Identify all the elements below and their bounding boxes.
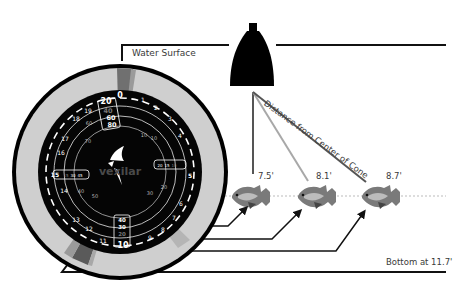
svg-text:80: 80 xyxy=(107,121,117,129)
svg-text:12: 12 xyxy=(85,225,93,232)
svg-text:40: 40 xyxy=(118,217,126,223)
svg-text:45: 45 xyxy=(77,173,83,178)
svg-text:30: 30 xyxy=(70,173,76,178)
fish-2-depth-label: 8.1' xyxy=(316,171,332,181)
svg-text:6: 6 xyxy=(179,200,183,207)
svg-text:10: 10 xyxy=(171,163,177,168)
svg-text:18: 18 xyxy=(72,115,80,122)
svg-text:17: 17 xyxy=(61,135,69,142)
transducer-icon xyxy=(230,23,274,86)
svg-text:7: 7 xyxy=(172,214,176,221)
svg-text:70: 70 xyxy=(85,138,91,144)
svg-text:15: 15 xyxy=(63,173,69,178)
fish-icon xyxy=(298,185,336,209)
svg-text:20: 20 xyxy=(157,163,163,168)
fish-icon xyxy=(362,185,400,209)
svg-text:4: 4 xyxy=(178,132,182,139)
svg-text:5: 5 xyxy=(188,172,192,179)
svg-text:vexilar: vexilar xyxy=(99,165,142,178)
svg-text:30: 30 xyxy=(118,224,126,230)
svg-text:3: 3 xyxy=(168,115,172,122)
bottom-depth-label: Bottom at 11.7' xyxy=(386,257,452,267)
svg-text:15: 15 xyxy=(164,163,170,168)
svg-text:10: 10 xyxy=(117,241,129,250)
svg-text:60: 60 xyxy=(86,120,92,126)
svg-text:13: 13 xyxy=(72,216,80,223)
svg-text:10: 10 xyxy=(141,132,147,138)
fish-3-depth-label: 8.7' xyxy=(386,171,402,181)
svg-text:14: 14 xyxy=(60,187,68,194)
svg-text:20: 20 xyxy=(118,231,126,237)
svg-text:20: 20 xyxy=(161,184,167,190)
fish-1-depth-label: 7.5' xyxy=(258,171,274,181)
water-surface-label: Water Surface xyxy=(132,48,196,58)
fish-icon xyxy=(232,185,270,209)
flasher-diagram: 0 1 2 3 4 5 6 7 8 9 10 11 12 13 14 15 16… xyxy=(0,0,468,290)
svg-text:10: 10 xyxy=(151,135,157,141)
svg-text:8: 8 xyxy=(161,226,165,233)
svg-text:50: 50 xyxy=(92,193,98,199)
svg-text:19: 19 xyxy=(84,107,92,114)
svg-text:9: 9 xyxy=(148,234,152,241)
flasher-dial: 0 1 2 3 4 5 6 7 8 9 10 11 12 13 14 15 16… xyxy=(12,64,228,280)
svg-text:15: 15 xyxy=(51,171,59,178)
svg-text:16: 16 xyxy=(57,149,65,156)
diagram-canvas: 0 1 2 3 4 5 6 7 8 9 10 11 12 13 14 15 16… xyxy=(0,0,468,290)
svg-text:1: 1 xyxy=(141,96,145,103)
dial-mark-0: 0 xyxy=(117,91,123,100)
svg-text:40: 40 xyxy=(78,188,84,194)
svg-text:11: 11 xyxy=(99,237,107,244)
svg-text:2: 2 xyxy=(154,104,158,111)
svg-text:30: 30 xyxy=(147,190,153,196)
